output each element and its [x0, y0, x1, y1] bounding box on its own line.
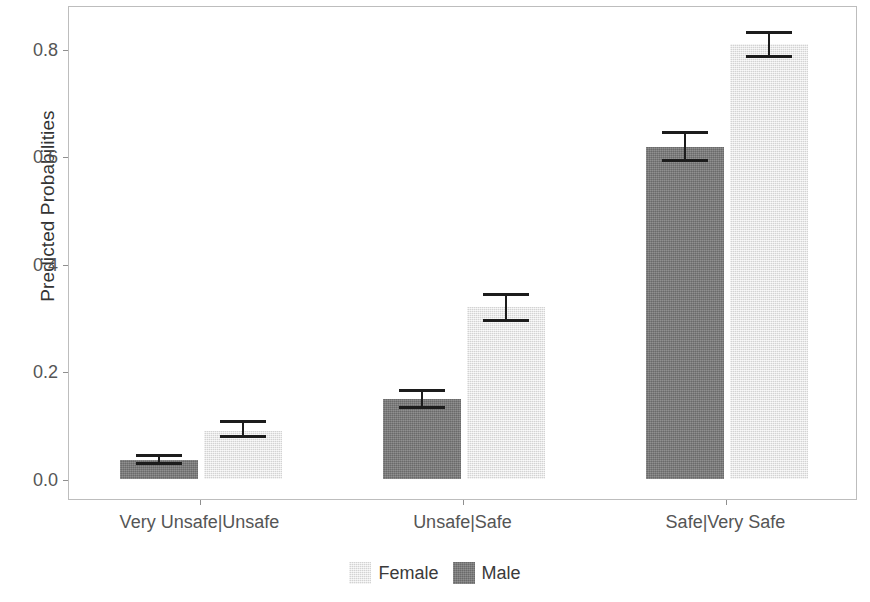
errorbar-cap-bottom — [746, 55, 792, 58]
errorbar-cap-bottom — [220, 435, 266, 438]
errorbar-male-group-3 — [662, 131, 708, 162]
x-tick-mark — [200, 500, 201, 505]
errorbar-female-group-1 — [220, 420, 266, 438]
errorbar-line — [505, 293, 507, 322]
y-tick-label: 0.0 — [12, 470, 58, 491]
plot-panel — [68, 6, 857, 500]
x-tick-label: Safe|Very Safe — [666, 512, 786, 533]
y-tick-label: 0.4 — [12, 254, 58, 275]
errorbar-cap-bottom — [136, 462, 182, 465]
errorbar-male-group-2 — [399, 389, 445, 408]
chart-root: Predicted Probabilities 0.00.20.40.60.8 … — [0, 0, 870, 602]
legend-item-female[interactable]: Female — [349, 562, 438, 584]
x-tick-label: Unsafe|Safe — [413, 512, 512, 533]
errorbar-female-group-3 — [746, 31, 792, 57]
legend-swatch-female — [349, 562, 371, 584]
plot-area — [69, 7, 856, 499]
y-axis-title: Predicted Probabilities — [37, 46, 59, 366]
bar-male-group-2 — [383, 399, 461, 479]
legend-item-male[interactable]: Male — [453, 562, 521, 584]
chart-legend: FemaleMale — [0, 562, 870, 584]
y-tick-label: 0.8 — [12, 39, 58, 60]
y-tick-label: 0.6 — [12, 147, 58, 168]
bar-female-group-2 — [467, 307, 545, 479]
bar-female-group-3 — [730, 44, 808, 479]
legend-label-male: Male — [482, 563, 521, 584]
bar-male-group-3 — [646, 147, 724, 479]
errorbar-cap-bottom — [662, 159, 708, 162]
errorbar-cap-bottom — [399, 406, 445, 409]
errorbar-female-group-2 — [483, 293, 529, 322]
legend-label-female: Female — [378, 563, 438, 584]
errorbar-male-group-1 — [136, 454, 182, 465]
bar-female-group-1 — [204, 431, 282, 479]
y-tick-label: 0.2 — [12, 362, 58, 383]
x-tick-mark — [463, 500, 464, 505]
x-tick-mark — [726, 500, 727, 505]
legend-swatch-male — [453, 562, 475, 584]
errorbar-line — [684, 131, 686, 162]
x-tick-label: Very Unsafe|Unsafe — [120, 512, 280, 533]
errorbar-cap-bottom — [483, 319, 529, 322]
